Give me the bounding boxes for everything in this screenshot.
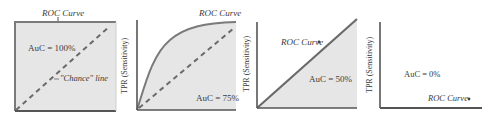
chance-line-label: "Chance" line [60, 73, 108, 83]
panel-auc-50: ROC Curve AuC = 50% TPR (Sensitivity) [242, 19, 357, 108]
roc-panels: ROC Curve AuC = 100% "Chance" line ROC C… [0, 0, 493, 124]
auc-label: AuC = 75% [196, 93, 240, 103]
roc-curve-label: ROC Curve [280, 37, 323, 47]
curve-pointer-dot [468, 98, 471, 101]
panel-auc-0: AuC = 0% ROC Curve TPR (Sensitivity) [365, 22, 482, 108]
y-axis-label: TPR (Sensitivity) [365, 36, 374, 93]
auc-label: AuC = 100% [28, 43, 76, 53]
roc-curve-title: ROC Curve [41, 8, 84, 18]
panel-auc-100: ROC Curve AuC = 100% "Chance" line [15, 8, 116, 111]
roc-curve-label: ROC Curve [427, 93, 468, 103]
auc-label: AuC = 50% [309, 74, 353, 84]
y-axis-label: TPR (Sensitivity) [242, 35, 251, 92]
curve-pointer-dot [318, 41, 321, 44]
panel-auc-75: ROC Curve AuC = 75% TPR (Sensitivity) [120, 8, 241, 110]
auc-label: AuC = 0% [404, 69, 440, 79]
y-axis-label: TPR (Sensitivity) [120, 37, 129, 94]
roc-curve-title: ROC Curve [198, 8, 241, 18]
